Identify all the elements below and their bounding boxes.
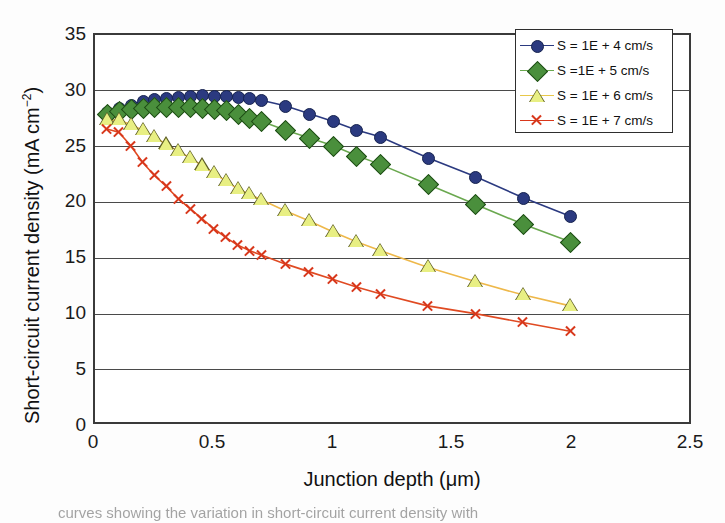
y-tick-25: 25 — [44, 136, 86, 155]
data-point-2-14 — [277, 203, 293, 217]
data-point-3-3 — [136, 156, 149, 169]
data-point-1-20 — [468, 197, 483, 212]
data-point-0-21 — [517, 192, 530, 205]
x-tick-1: 1 — [302, 432, 362, 451]
legend: S = 1E + 4 cm/s S =1E + 5 cm/s S = 1E + … — [515, 29, 673, 133]
data-point-3-19 — [421, 299, 434, 312]
data-point-3-5 — [160, 180, 173, 193]
figure-container: Short-circuit current density (mA cm−2) … — [0, 0, 725, 523]
diamond-marker-icon — [520, 63, 554, 79]
data-point-0-19 — [422, 152, 435, 165]
data-point-1-15 — [302, 131, 317, 146]
triangle-marker-icon — [520, 88, 554, 104]
data-point-3-16 — [326, 273, 339, 286]
legend-label-1: S =1E + 5 cm/s — [557, 63, 649, 78]
x-tick-1.5: 1.5 — [421, 432, 481, 451]
data-point-3-22 — [564, 325, 577, 338]
data-point-0-15 — [303, 108, 316, 121]
data-point-3-1 — [112, 126, 125, 139]
data-point-1-17 — [349, 149, 364, 164]
data-point-0-16 — [327, 115, 340, 128]
y-tick-5: 5 — [44, 359, 86, 378]
data-point-3-13 — [255, 249, 268, 262]
data-point-1-13 — [254, 114, 269, 129]
legend-label-3: S = 1E + 7 cm/s — [557, 113, 653, 128]
y-axis-title-close: ) — [21, 87, 43, 94]
data-point-1-19 — [421, 177, 436, 192]
data-point-1-16 — [326, 139, 341, 154]
data-point-1-14 — [278, 123, 293, 138]
x-tick-0.5: 0.5 — [182, 432, 242, 451]
data-point-1-18 — [373, 157, 388, 172]
data-point-1-21 — [516, 217, 531, 232]
data-point-2-17 — [348, 234, 364, 248]
data-point-3-17 — [350, 281, 363, 294]
data-point-3-20 — [469, 307, 482, 320]
data-point-3-15 — [302, 265, 315, 278]
legend-label-2: S = 1E + 6 cm/s — [557, 88, 653, 103]
data-point-2-21 — [515, 287, 531, 301]
data-point-3-18 — [374, 287, 387, 300]
y-tick-35: 35 — [44, 24, 86, 43]
legend-item-3[interactable]: S = 1E + 7 cm/s — [520, 108, 668, 133]
data-point-0-13 — [255, 94, 268, 107]
legend-item-0[interactable]: S = 1E + 4 cm/s — [520, 33, 668, 58]
y-tick-20: 20 — [44, 191, 86, 210]
data-point-2-16 — [325, 224, 341, 238]
y-tick-10: 10 — [44, 303, 86, 322]
x-axis-title: Junction depth (μm) — [93, 468, 691, 491]
data-point-2-22 — [562, 298, 578, 312]
data-point-2-18 — [372, 243, 388, 257]
data-point-3-14 — [279, 257, 292, 270]
data-point-2-20 — [467, 274, 483, 288]
y-axis-title-exponent: −2 — [20, 94, 34, 108]
x-tick-2: 2 — [541, 432, 601, 451]
legend-item-1[interactable]: S =1E + 5 cm/s — [520, 58, 668, 83]
legend-item-2[interactable]: S = 1E + 6 cm/s — [520, 83, 668, 108]
data-point-1-22 — [563, 235, 578, 250]
data-point-3-2 — [124, 139, 137, 152]
y-tick-15: 15 — [44, 247, 86, 266]
y-axis-title-text: Short-circuit current density (mA cm — [21, 107, 43, 424]
caption-fragment: curves showing the variation in short-ci… — [58, 504, 698, 521]
data-point-2-13 — [253, 192, 269, 206]
x-tick-0: 0 — [63, 432, 123, 451]
circle-marker-icon — [520, 38, 554, 54]
cross-marker-icon — [520, 113, 554, 129]
data-point-2-15 — [301, 213, 317, 227]
data-point-3-21 — [516, 316, 529, 329]
data-point-0-20 — [469, 171, 482, 184]
data-point-0-17 — [350, 124, 363, 137]
x-tick-2.5: 2.5 — [660, 432, 720, 451]
data-point-0-14 — [279, 100, 292, 113]
legend-label-0: S = 1E + 4 cm/s — [557, 38, 653, 53]
data-point-0-22 — [564, 210, 577, 223]
y-tick-30: 30 — [44, 80, 86, 99]
data-point-0-18 — [374, 131, 387, 144]
data-point-2-19 — [420, 259, 436, 273]
